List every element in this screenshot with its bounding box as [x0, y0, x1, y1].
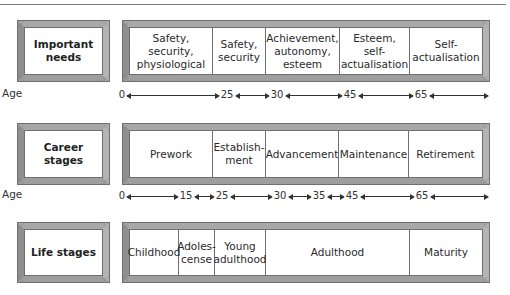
age-tick: 45: [343, 88, 358, 102]
label-box-important-needs: Important needs: [17, 20, 110, 82]
stage-cell: Retirement: [409, 131, 482, 177]
stage-cell: Young adulthood: [215, 230, 266, 275]
stage-cell: Maintenance: [339, 131, 409, 177]
age-range-arrow: [236, 95, 269, 96]
stage-box-important-needs: Safety, security, physiologicalSafety, s…: [122, 20, 490, 82]
stage-cell: Achievement, autonomy, esteem: [266, 28, 340, 74]
age-range-arrow: [195, 196, 214, 197]
age-axis-career: 0152530354565: [120, 189, 492, 203]
row-label: Important needs: [24, 27, 103, 75]
stage-cell: Adulthood: [266, 230, 410, 275]
age-tick: 35: [312, 189, 327, 203]
age-label: Age: [2, 87, 22, 99]
age-range-arrow: [361, 196, 414, 197]
stage-cell: Prework: [130, 131, 213, 177]
stage-cell: Self- actualisation: [410, 28, 482, 74]
age-tick: 45: [345, 189, 360, 203]
stage-box-life-stages: ChildhoodAdoles- censeYoung adulthoodAdu…: [122, 222, 490, 283]
age-range-arrow: [359, 95, 413, 96]
age-tick: 30: [270, 88, 285, 102]
top-rule: [0, 4, 506, 5]
row-label: Life stages: [24, 229, 103, 276]
label-box-life-stages: Life stages: [17, 222, 110, 283]
age-range-arrow: [289, 196, 311, 197]
age-tick: 25: [220, 88, 235, 102]
stage-cell: Esteem, self- actualisation: [340, 28, 410, 74]
age-range-arrow: [127, 196, 177, 197]
stage-cells: Safety, security, physiologicalSafety, s…: [129, 27, 483, 75]
age-label: Age: [2, 188, 22, 200]
stage-cell: Maturity: [410, 230, 482, 275]
age-range-arrow: [431, 196, 489, 197]
stage-cell: Childhood: [130, 230, 179, 275]
age-range-arrow: [127, 95, 218, 96]
age-tick: 0: [118, 88, 126, 102]
age-axis-needs: 025304565: [120, 88, 492, 102]
row-label: Career stages: [24, 130, 103, 178]
stage-box-career-stages: PreworkEstablish- mentAdvancementMainten…: [122, 123, 490, 185]
stage-cell: Advancement: [266, 131, 339, 177]
age-range-arrow: [231, 196, 272, 197]
age-range-arrow: [286, 95, 342, 96]
age-tick: 30: [273, 189, 288, 203]
stage-cell: Establish- ment: [213, 131, 266, 177]
age-tick: 25: [215, 189, 230, 203]
stage-cell: Safety, security: [213, 28, 266, 74]
label-box-career-stages: Career stages: [17, 123, 110, 185]
age-tick: 65: [414, 88, 429, 102]
age-tick: 15: [179, 189, 194, 203]
age-tick: 65: [415, 189, 430, 203]
stage-cells: ChildhoodAdoles- censeYoung adulthoodAdu…: [129, 229, 483, 276]
age-tick: 0: [118, 189, 126, 203]
stage-cell: Adoles- cense: [179, 230, 215, 275]
age-range-arrow: [328, 196, 344, 197]
age-range-arrow: [430, 95, 489, 96]
stage-cell: Safety, security, physiological: [130, 28, 213, 74]
stage-cells: PreworkEstablish- mentAdvancementMainten…: [129, 130, 483, 178]
